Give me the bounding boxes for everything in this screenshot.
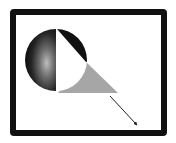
arrow [110,96,136,124]
diagram-canvas [0,0,176,143]
sphere-left-half [25,29,56,91]
